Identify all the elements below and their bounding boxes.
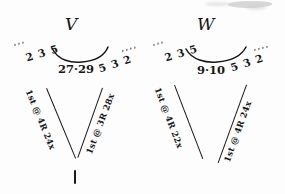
group-w-ticks-right: ’’’’: [253, 45, 271, 58]
group-v-numbers-center: 27·29: [58, 62, 94, 76]
sketch-canvas: V ’’’ 2 3 5 27·29 5 3 2 ’’’’ 1st @ 4R 24…: [0, 0, 285, 194]
paper-smudge-artifact-secondary: [205, 2, 231, 6]
group-label-v: V: [65, 16, 78, 33]
group-w-numbers-center: 9·10: [197, 63, 225, 77]
group-v-left-arm-label: 1st @ 4R 24x: [24, 88, 58, 151]
group-w-left-arm-label: 1st @ 4R 22x: [153, 86, 185, 150]
group-label-w: W: [197, 16, 215, 33]
bottom-tick-mark: [74, 170, 76, 184]
group-v-ticks-right: ’’’’: [121, 46, 139, 59]
paper-smudge-artifact-tertiary: [246, 5, 266, 10]
